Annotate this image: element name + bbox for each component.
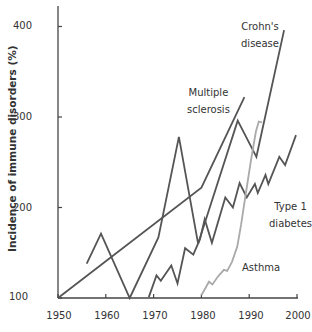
crohns-label-line1: Crohn's — [241, 18, 279, 35]
x-tick-label-1970: 1970 — [138, 310, 172, 321]
y-tick-label-300: 300 — [4, 111, 32, 122]
series-label-type1-diabetes: Type 1 diabetes — [269, 198, 312, 232]
ms-label-line1: Multiple — [187, 84, 230, 101]
series-lines — [58, 30, 296, 298]
x-tick-label-2000: 2000 — [281, 310, 312, 321]
ms-label-line2: sclerosis — [187, 101, 230, 118]
y-tick-label-400: 400 — [4, 20, 32, 31]
crohns-label-line2: disease — [241, 35, 279, 52]
y-axis-label: Incidence of immune disorders (%) — [6, 62, 20, 252]
series-label-multiple-sclerosis: Multiple sclerosis — [187, 84, 230, 118]
diabetes-label-line1: Type 1 — [269, 198, 312, 215]
x-tick-label-1990: 1990 — [234, 310, 268, 321]
series-line-crohn-s-disease — [87, 30, 284, 298]
y-tick-label-100: 100 — [0, 291, 28, 302]
diabetes-label-line2: diabetes — [269, 215, 312, 232]
series-label-crohns-disease: Crohn's disease — [241, 18, 279, 52]
x-tick-label-1960: 1960 — [90, 310, 124, 321]
x-tick-label-1950: 1950 — [42, 310, 76, 321]
series-label-asthma: Asthma — [242, 259, 280, 276]
series-line-multiple-sclerosis — [58, 97, 244, 298]
y-tick-label-200: 200 — [4, 202, 32, 213]
x-tick-label-1980: 1980 — [186, 310, 220, 321]
